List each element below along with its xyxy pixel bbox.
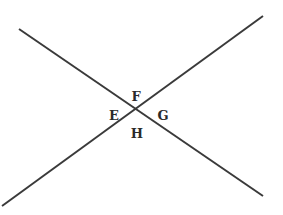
line-1 <box>19 29 263 196</box>
angle-label-g: G <box>157 109 168 122</box>
angle-label-f: F <box>131 90 140 103</box>
angle-label-e: E <box>109 109 119 122</box>
lines-svg <box>0 0 283 215</box>
diagram-canvas: F E G H <box>0 0 283 215</box>
angle-label-h: H <box>131 127 143 140</box>
